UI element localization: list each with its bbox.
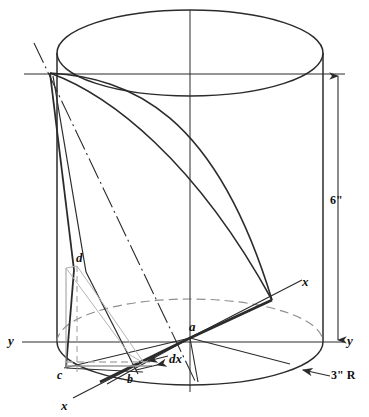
point-label-d: d (76, 251, 83, 264)
reference-lines (22, 74, 345, 342)
element-edge-c-d (66, 270, 74, 368)
cut-plane-front-arc (50, 73, 272, 300)
axis-label-y-left: y (8, 334, 14, 347)
cylinder-figure (0, 0, 369, 417)
x-axis-chord-heavy (190, 300, 272, 338)
diagram-canvas: 6" 3" R y y x x a b c d dx (0, 0, 369, 417)
element-edge-b-apex (53, 76, 86, 272)
chord-origin-short-vertical (190, 338, 198, 382)
radius-leader (303, 370, 330, 376)
slant-axis-dashdot (34, 43, 196, 383)
axis-label-x-lower-left: x (61, 399, 68, 412)
differential-element (50, 73, 168, 374)
axis-label-y-right: y (347, 334, 353, 347)
cut-plane-rear-arc (50, 73, 272, 300)
element-projection-face (66, 266, 144, 363)
point-label-b: b (127, 373, 133, 385)
axis-label-x-upper-right: x (302, 275, 309, 288)
height-dimension-label: 6" (330, 194, 343, 206)
radius-leader-line (303, 370, 330, 376)
element-edge-b-top (86, 272, 138, 374)
element-label-dx: dx (169, 352, 182, 365)
point-label-c: c (57, 369, 62, 381)
radius-dimension-label: 3" R (331, 369, 355, 381)
cutting-plane (50, 73, 272, 300)
point-label-a: a (189, 320, 196, 333)
